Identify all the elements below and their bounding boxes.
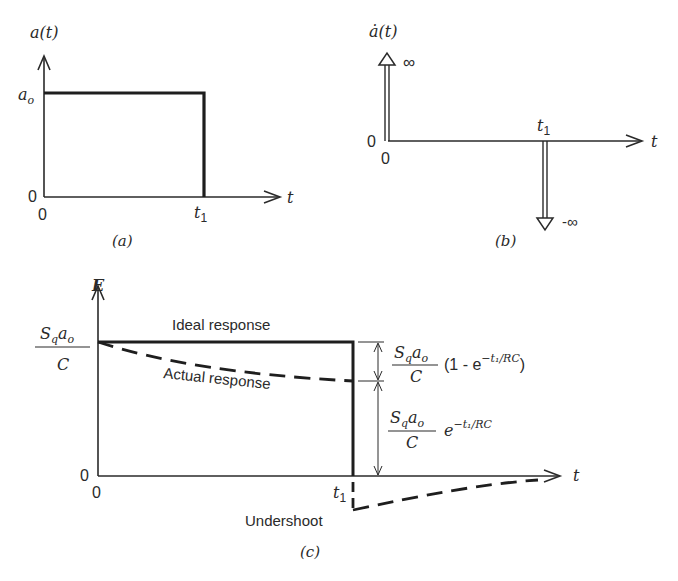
panel-b-y-label: ȧ(t) <box>369 22 397 41</box>
panel-b-origin-x: 0 <box>381 150 390 167</box>
panel-b-t1-label: t1 <box>537 116 550 138</box>
panel-a-origin-y: 0 <box>28 188 37 205</box>
panel-a-level-label: ao <box>18 85 35 107</box>
svg-text:C: C <box>410 367 422 386</box>
panel-c-ideal-response-line <box>98 342 353 476</box>
svg-text:(1 - e−t₁/RC): (1 - e−t₁/RC) <box>444 352 525 373</box>
panel-c-y-label: E <box>91 276 105 295</box>
panel-c-actual-label: Actual response <box>163 364 272 392</box>
panel-c-undershoot-label: Undershoot <box>245 512 323 529</box>
panel-b-impulse-down-arrow-icon <box>537 218 553 230</box>
panel-b-infinity-label: ∞ <box>403 53 415 72</box>
panel-a-x-label: t <box>287 188 294 207</box>
panel-c-level-denominator: C <box>57 355 69 374</box>
panel-b-caption: (b) <box>495 232 516 250</box>
panel-b-origin-y: 0 <box>367 133 376 150</box>
panel-c-ideal-label: Ideal response <box>172 316 270 333</box>
panel-c-caption: (c) <box>300 543 320 561</box>
panel-c-x-label: t <box>573 466 580 485</box>
panel-c-upper-gap-annotation: Sqao C (1 - e−t₁/RC) <box>392 343 525 386</box>
panel-c-lower-gap-annotation: Sqao C e−t₁/RC <box>388 408 493 452</box>
panel-c-origin-x: 0 <box>92 484 101 501</box>
panel-a-caption: (a) <box>112 232 133 250</box>
panel-b: ȧ(t) ∞ -∞ 0 0 t1 t (b) <box>367 22 658 250</box>
panel-a-y-label: a(t) <box>30 23 58 42</box>
panel-a-t1-label: t1 <box>194 203 207 225</box>
svg-text:Sqao: Sqao <box>394 343 429 365</box>
panel-a: a(t) ao 0 0 t1 t (a) <box>18 23 294 250</box>
panel-c-t1-label: t1 <box>333 483 346 505</box>
figure-canvas: a(t) ao 0 0 t1 t (a) ȧ(t) ∞ -∞ 0 0 t1 t … <box>0 0 678 581</box>
panel-c: Sqao C Sqao C (1 - e−t₁/RC) Sqao <box>35 276 580 561</box>
panel-c-level-numerator: Sqao <box>40 324 75 346</box>
panel-c-undershoot-recovery <box>353 480 538 510</box>
panel-a-pulse <box>44 93 204 197</box>
panel-b-x-label: t <box>651 132 658 151</box>
panel-c-origin-y: 0 <box>80 467 89 484</box>
svg-text:C: C <box>406 433 418 452</box>
panel-b-impulse-up-arrow-icon <box>379 53 395 65</box>
panel-b-neg-infinity-label: -∞ <box>562 213 578 230</box>
svg-text:e−t₁/RC: e−t₁/RC <box>444 418 493 440</box>
panel-a-origin-x: 0 <box>38 206 47 223</box>
svg-text:Sqao: Sqao <box>390 408 425 430</box>
